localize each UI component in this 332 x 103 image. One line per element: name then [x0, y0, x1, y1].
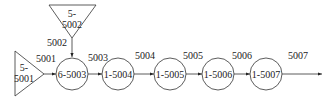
node-1-5006-label: 1-5006: [204, 69, 232, 80]
node-1-5005-label: 1-5005: [156, 69, 184, 80]
source-5001-label-line2: 5001: [14, 73, 34, 84]
edge-5006-label: 5006: [232, 50, 252, 61]
source-5002-label-line2: 5002: [62, 19, 82, 30]
edge-5002-label: 5002: [47, 37, 67, 48]
node-1-5007-label: 1-5007: [252, 69, 280, 80]
node-1-5004-label: 1-5004: [104, 69, 132, 80]
edge-5001-label: 5001: [36, 53, 56, 64]
edge-5003-label: 5003: [88, 52, 108, 63]
edge-5007-label: 5007: [288, 50, 308, 61]
edge-5005-label: 5005: [183, 50, 203, 61]
flow-diagram: 5- 5002 5002 5- 5001 5001 6-5003 5003 1-…: [0, 0, 332, 103]
source-5001-label-line1: 5-: [20, 62, 28, 73]
source-5002-triangle: 5- 5002: [49, 5, 96, 38]
edge-5004-label: 5004: [135, 50, 155, 61]
node-6-5003-label: 6-5003: [58, 69, 86, 80]
source-5002-label-line1: 5-: [68, 8, 76, 19]
